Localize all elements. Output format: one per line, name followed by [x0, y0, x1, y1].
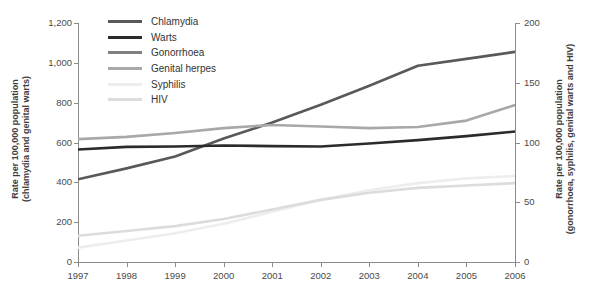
- chart-figure: Rate per 100,000 population (chlamydia a…: [0, 0, 594, 302]
- y-axis-right-tick-label: 50: [524, 196, 564, 207]
- y-axis-right-tick-mark: [516, 143, 520, 144]
- series-line-hiv: [78, 183, 515, 236]
- x-axis-tick-mark: [175, 263, 176, 267]
- legend-item-label: Warts: [151, 32, 177, 43]
- y-axis-left-tick-label: 600: [32, 137, 72, 148]
- legend-item-label: Chlamydia: [151, 16, 198, 27]
- y-axis-left-tick-label: 800: [32, 97, 72, 108]
- y-axis-left-tick-label: 1,200: [32, 17, 72, 28]
- y-axis-left-tick-label: 0: [32, 256, 72, 267]
- y-axis-right-tick-mark: [516, 23, 520, 24]
- legend-item-warts[interactable]: Warts: [108, 30, 216, 46]
- x-axis-tick-mark: [127, 263, 128, 267]
- x-axis-tick-mark: [418, 263, 419, 267]
- series-line-genital-herpes: [78, 105, 515, 139]
- y-axis-right-tick-label: 150: [524, 77, 564, 88]
- legend-item-chlamydia[interactable]: Chlamydia: [108, 14, 216, 30]
- y-axis-right-tick-label: 100: [524, 137, 564, 148]
- y-axis-right-tick-mark: [516, 83, 520, 84]
- x-axis-tick-mark: [369, 263, 370, 267]
- x-axis-tick-label: 2004: [398, 270, 438, 281]
- legend-item-label: Gonorrhoea: [151, 47, 204, 58]
- legend-item-gonorrhoea[interactable]: Gonorrhoea: [108, 45, 216, 61]
- legend-item-hiv[interactable]: HIV: [108, 92, 216, 108]
- legend-swatch-icon: [108, 83, 142, 86]
- x-axis-tick-label: 1999: [155, 270, 195, 281]
- legend-item-label: Syphilis: [151, 79, 185, 90]
- x-axis-tick-label: 2002: [301, 270, 341, 281]
- legend-item-genital-herpes[interactable]: Genital herpes: [108, 61, 216, 77]
- legend-swatch-icon: [108, 51, 142, 54]
- x-axis-tick-mark: [515, 263, 516, 267]
- y-axis-left-tick-label: 400: [32, 176, 72, 187]
- legend-item-syphilis[interactable]: Syphilis: [108, 76, 216, 92]
- legend: ChlamydiaWartsGonorrhoeaGenital herpesSy…: [108, 14, 216, 108]
- x-axis-tick-mark: [272, 263, 273, 267]
- y-axis-left-tick-label: 1,000: [32, 57, 72, 68]
- y-axis-right-tick-label: 200: [524, 17, 564, 28]
- x-axis-spine: [78, 262, 516, 263]
- x-axis-tick-label: 2003: [349, 270, 389, 281]
- y-axis-right-tick-label: 0: [524, 256, 564, 267]
- x-axis-tick-label: 2000: [204, 270, 244, 281]
- x-axis-tick-label: 2006: [495, 270, 535, 281]
- x-axis-tick-mark: [321, 263, 322, 267]
- x-axis-tick-label: 2005: [446, 270, 486, 281]
- legend-swatch-icon: [108, 98, 142, 101]
- legend-item-label: Genital herpes: [151, 63, 216, 74]
- y-axis-right-tick-mark: [516, 202, 520, 203]
- x-axis-tick-mark: [224, 263, 225, 267]
- legend-item-label: HIV: [151, 94, 168, 105]
- legend-swatch-icon: [108, 36, 142, 39]
- y-axis-left-title: Rate per 100,000 population (chlamydia a…: [10, 44, 32, 234]
- x-axis-tick-mark: [78, 263, 79, 267]
- x-axis-tick-label: 1997: [58, 270, 98, 281]
- x-axis-tick-label: 1998: [107, 270, 147, 281]
- legend-swatch-icon: [108, 67, 142, 70]
- y-axis-left-tick-label: 200: [32, 216, 72, 227]
- legend-swatch-icon: [108, 20, 142, 23]
- x-axis-tick-label: 2001: [252, 270, 292, 281]
- y-axis-right-tick-mark: [516, 262, 520, 263]
- x-axis-tick-mark: [466, 263, 467, 267]
